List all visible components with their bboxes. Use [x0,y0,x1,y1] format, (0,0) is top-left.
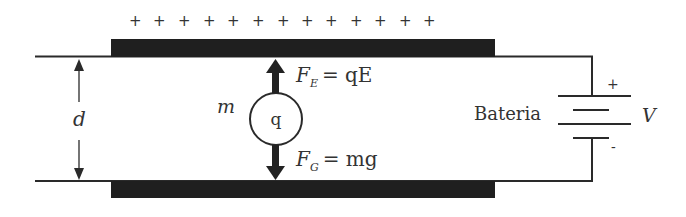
arrow-up-icon [74,59,84,71]
charge-plus: + [129,12,142,30]
gravity-force-arrow: FG= mg [266,145,378,180]
distance-label: d [73,107,86,131]
battery-plus-label: + [607,76,619,92]
top-plate [111,39,495,57]
battery: + - Bateria V [474,56,658,181]
battery-minus-label: - [611,139,616,155]
charge-plus: + [178,12,191,30]
charge-plus: + [423,12,436,30]
charge-plus: + [153,12,166,30]
arrow-down-icon [266,166,285,180]
charge-plus: + [203,12,216,30]
voltage-label: V [642,104,658,126]
charge-plus: + [277,12,290,30]
arrow-down-icon [74,168,84,180]
charge-plus: + [227,12,240,30]
battery-label: Bateria [474,103,541,124]
charge-plus: + [374,12,387,30]
electric-force-symbol: FE= qE [295,63,372,90]
charged-particle: q m [217,93,302,145]
charge-plus: + [399,12,412,30]
arrow-up-icon [266,59,285,73]
charge-plus: + [252,12,265,30]
charge-plus: + [350,12,363,30]
top-plate-charges: + + + + + + + + + + + + + [129,12,436,30]
charge-label: q [271,109,282,129]
bottom-plate [111,181,495,198]
gravity-force-symbol: FG= mg [295,147,378,174]
mass-label: m [217,95,235,117]
distance-arrow: d [73,59,86,180]
electric-force-arrow: FE= qE [266,59,372,93]
charge-plus: + [325,12,338,30]
charge-plus: + [301,12,314,30]
parallel-plate-capacitor-diagram: + + + + + + + + + + + + + d q m FE= qE [0,0,686,217]
